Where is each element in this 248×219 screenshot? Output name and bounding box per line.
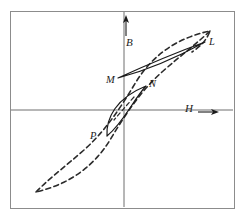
major-loop-upper-branch <box>36 31 210 192</box>
hysteresis-figure: B H L M N P <box>0 0 248 219</box>
b-axis-label: B <box>126 37 133 48</box>
point-label-p: P <box>90 131 96 142</box>
point-label-l: L <box>209 37 215 48</box>
minor-loop-np <box>107 86 146 136</box>
hysteresis-diagram-canvas <box>0 0 248 219</box>
point-label-n: N <box>149 79 156 90</box>
h-axis-label: H <box>185 103 193 114</box>
point-label-m: M <box>106 75 115 86</box>
